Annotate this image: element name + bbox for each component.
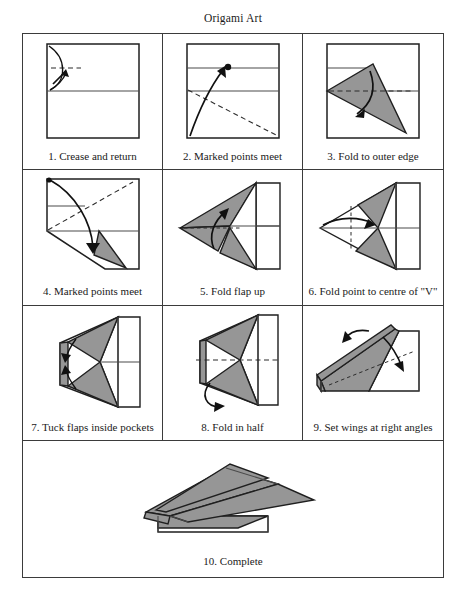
step-panel-7: 7. Tuck flaps inside pockets [23, 306, 163, 442]
steps-grid: 1. Crease and return 2. Marked points me… [22, 33, 444, 578]
step-figure-3 [303, 34, 443, 148]
step-figure-8 [163, 306, 302, 420]
step-panel-6: 6. Fold point to centre of "V" [303, 170, 443, 306]
step-figure-9 [303, 306, 443, 420]
step-panel-10: 10. Complete [23, 441, 443, 577]
step-caption-2: 2. Marked points meet [181, 148, 284, 169]
step-caption-4: 4. Marked points meet [41, 283, 144, 304]
step-caption-5: 5. Fold flap up [198, 283, 267, 304]
step-caption-6: 6. Fold point to centre of "V" [306, 283, 439, 304]
step-figure-5 [163, 170, 302, 284]
step-figure-4 [23, 170, 162, 284]
step-panel-5: 5. Fold flap up [163, 170, 303, 306]
step-figure-6 [303, 170, 443, 284]
step-panel-9: 9. Set wings at right angles [303, 306, 443, 442]
step-figure-10 [23, 441, 443, 553]
step-caption-9: 9. Set wings at right angles [311, 419, 434, 440]
step-caption-3: 3. Fold to outer edge [325, 148, 420, 169]
step-figure-7 [23, 306, 162, 420]
step-caption-1: 1. Crease and return [46, 148, 139, 169]
step-figure-2 [163, 34, 302, 148]
step-panel-8: 8. Fold in half [163, 306, 303, 442]
step-caption-10: 10. Complete [201, 553, 264, 577]
step-panel-4: 4. Marked points meet [23, 170, 163, 306]
origami-instruction-sheet: Origami Art 1. Crease and return [0, 0, 466, 590]
step-caption-7: 7. Tuck flaps inside pockets [29, 419, 156, 440]
step-panel-3: 3. Fold to outer edge [303, 34, 443, 170]
step-figure-1 [23, 34, 162, 148]
step-caption-8: 8. Fold in half [199, 419, 265, 440]
step-panel-1: 1. Crease and return [23, 34, 163, 170]
page-title: Origami Art [0, 12, 466, 24]
step-panel-2: 2. Marked points meet [163, 34, 303, 170]
